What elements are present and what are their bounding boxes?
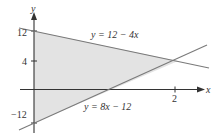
x-axis-arrow-icon: [197, 87, 205, 93]
graph: y x 12 4 −12 2 y = 12 − 4x y = 8x − 12: [0, 0, 217, 136]
y-axis-label: y: [30, 3, 36, 14]
upper-curve-label: y = 12 − 4x: [90, 29, 139, 40]
x-tick-label-2: 2: [172, 93, 177, 104]
y-tick-label-4: 4: [22, 56, 27, 67]
x-axis-label: x: [205, 84, 211, 95]
y-tick-label-neg12: −12: [11, 109, 27, 120]
lower-curve-label: y = 8x − 12: [83, 101, 131, 112]
y-tick-label-12: 12: [17, 27, 27, 38]
